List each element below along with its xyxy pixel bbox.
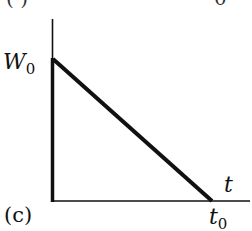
x-tick-t0: t0 <box>209 204 227 229</box>
figure: ( ) 0 W0 t t0 (c) <box>0 0 252 231</box>
panel-label: (c) <box>4 203 32 227</box>
x-axis-label: t <box>224 172 233 197</box>
y-axis-label: W0 <box>3 49 35 74</box>
decreasing-line <box>53 59 212 201</box>
graph-svg <box>0 0 252 231</box>
